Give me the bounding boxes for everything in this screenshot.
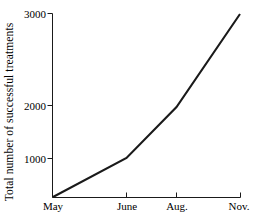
y-tick-label-1000: 1000 — [20, 154, 46, 165]
y-tick-label-2000: 2000 — [20, 101, 46, 112]
line-chart: Total number of successful treatments 30… — [0, 0, 259, 224]
x-tick-label-june: June — [117, 201, 137, 212]
plot-area — [0, 0, 259, 224]
x-tick-label-may: May — [43, 201, 63, 212]
x-tick-label-nov: Nov. — [229, 201, 250, 212]
x-tick-label-aug: Aug. — [166, 201, 188, 212]
y-tick-label-3000: 3000 — [20, 9, 46, 20]
data-line-series-1 — [53, 14, 240, 197]
